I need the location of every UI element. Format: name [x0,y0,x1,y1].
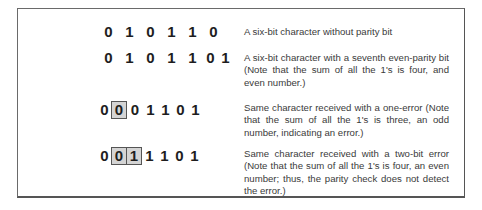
row-description: Same character received with a one-error… [244,102,449,139]
bit: 0 [140,49,161,67]
bit: 1 [157,147,172,165]
bit: 1 [142,147,157,165]
row-description: A six-bit character without parity bit [244,26,449,38]
bit: 0 [98,101,111,119]
bit: 0 [98,49,119,67]
bit: 1 [182,23,203,41]
bit: 0 [98,23,119,41]
bit: 0 [127,101,143,119]
bit: 1 [188,101,203,119]
bit: 1 [218,49,233,67]
bit: 1 [119,49,140,67]
bit: 0 [203,23,224,41]
bit: 0 [172,147,187,165]
bit: 1 [187,147,202,165]
bit-sequence: 0 1 0 1 1 0 [98,23,224,41]
bit: 0 [98,147,111,165]
error-bit-highlight: 0 [111,101,127,119]
bit: 1 [161,49,182,67]
bit-sequence: 0 1 0 1 1 0 1 [98,49,233,67]
bit-sequence: 0 0 1 1 1 0 1 [98,147,202,165]
bit-sequence: 0 0 0 1 1 0 1 [98,101,203,119]
parity-figure-frame: 0 1 0 1 1 0 A six-bit character without … [17,8,465,198]
bit: 0 [203,49,218,67]
bit: 0 [140,23,161,41]
bit: 1 [158,101,173,119]
bit: 0 [173,101,188,119]
error-bit-highlight: 0 [111,147,127,165]
bit: 1 [143,101,158,119]
row-description: A six-bit character with a seventh even-… [244,52,449,89]
row-description: Same character received with a two-bit e… [244,148,449,197]
error-bit-highlight: 1 [127,147,142,165]
bit: 1 [182,49,203,67]
bit: 1 [161,23,182,41]
bit: 1 [119,23,140,41]
